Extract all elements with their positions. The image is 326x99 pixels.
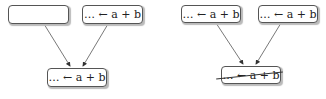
box-label: … ← a + b: [84, 8, 141, 21]
box-label: … ← a + b: [48, 71, 105, 84]
arrow-right-c-to-bottom: [216, 23, 243, 64]
box-label-struck: … ← a + b: [222, 69, 279, 82]
box-label: … ← a + b: [259, 8, 316, 21]
arrow-left-a-to-bottom: [44, 24, 70, 66]
left-top-box-empty: [8, 5, 69, 24]
right-top-box-assignment-1: … ← a + b: [181, 5, 241, 23]
right-bottom-box-struck: … ← a + b: [221, 66, 281, 84]
left-bottom-box: … ← a + b: [47, 68, 107, 87]
right-top-box-assignment-2: … ← a + b: [258, 5, 318, 23]
arrow-left-b-to-bottom: [83, 24, 108, 66]
box-label: … ← a + b: [182, 8, 239, 21]
left-top-box-assignment: … ← a + b: [82, 5, 143, 24]
arrow-right-d-to-bottom: [256, 23, 281, 64]
